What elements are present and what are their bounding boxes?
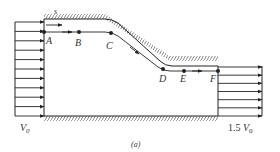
outlet-velocity-profile [218, 66, 262, 116]
point-a-dot [42, 30, 46, 34]
point-f-dot [216, 69, 220, 73]
inlet-velocity-profile [15, 19, 44, 116]
point-d-label: D [158, 73, 167, 84]
point-c-dot [109, 31, 113, 35]
top-wall [44, 14, 218, 66]
point-c-label: C [106, 40, 113, 51]
inlet-arrows [15, 22, 44, 116]
figure-caption: (a) [131, 140, 141, 149]
point-b-label: B [75, 37, 81, 48]
flow-diagram: s A B C D E F V0 1.5 V0 (a) [0, 0, 280, 152]
outlet-velocity-label: 1.5 V0 [228, 122, 253, 135]
streamline [44, 32, 218, 71]
point-a-label: A [45, 35, 53, 46]
point-e-label: E [179, 73, 186, 84]
point-f-label: F [209, 73, 217, 84]
outlet-arrows [218, 67, 262, 116]
inlet-velocity-label: V0 [20, 122, 30, 135]
point-b-dot [77, 30, 81, 34]
point-d-dot [161, 67, 165, 71]
bottom-wall [44, 116, 218, 121]
s-label: s [54, 7, 57, 16]
